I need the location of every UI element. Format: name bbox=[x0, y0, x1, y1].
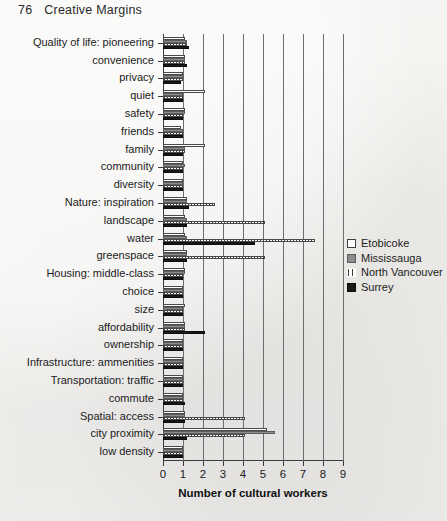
category-label: safety bbox=[125, 108, 154, 119]
x-axis-tick bbox=[203, 461, 204, 466]
bar-group bbox=[163, 443, 343, 461]
category-axis-labels: Quality of life: pioneeringconveniencepr… bbox=[0, 34, 160, 461]
x-axis-tick bbox=[163, 461, 164, 466]
x-tick-label: 4 bbox=[240, 468, 246, 480]
bar-group bbox=[163, 248, 343, 266]
bar-group bbox=[163, 194, 343, 212]
x-axis-ticks bbox=[163, 461, 343, 462]
bar-surrey bbox=[163, 384, 183, 387]
legend-label: Etobicoke bbox=[361, 238, 409, 250]
bar-surrey bbox=[163, 224, 187, 227]
category-label: city proximity bbox=[90, 428, 154, 439]
bar-surrey bbox=[163, 153, 183, 156]
category-label: commute bbox=[109, 393, 154, 404]
bar-group bbox=[163, 390, 343, 408]
category-label: size bbox=[134, 304, 154, 315]
category-label: landscape bbox=[104, 215, 154, 226]
bar-group bbox=[163, 70, 343, 88]
x-axis-tick bbox=[223, 461, 224, 466]
bar-group bbox=[163, 425, 343, 443]
bar-surrey bbox=[163, 277, 183, 280]
bar-surrey bbox=[163, 170, 183, 173]
category-label: greenspace bbox=[97, 250, 155, 261]
category-label: quiet bbox=[130, 90, 154, 101]
category-label: privacy bbox=[119, 72, 154, 83]
x-axis-tick bbox=[183, 461, 184, 466]
bar-surrey bbox=[163, 242, 255, 245]
x-axis-tick bbox=[323, 461, 324, 466]
bar-surrey bbox=[163, 402, 185, 405]
bar-group bbox=[163, 34, 343, 52]
bar-surrey bbox=[163, 46, 189, 49]
x-tick-label: 2 bbox=[200, 468, 206, 480]
x-axis-tick bbox=[283, 461, 284, 466]
plot-area bbox=[163, 34, 343, 461]
bar-surrey bbox=[163, 366, 183, 369]
x-axis-tick bbox=[343, 461, 344, 466]
bar-group bbox=[163, 105, 343, 123]
bar-surrey bbox=[163, 135, 183, 138]
chart-legend: EtobicokeMississaugaNorth VancouverSurre… bbox=[347, 238, 443, 296]
x-tick-label: 9 bbox=[340, 468, 346, 480]
category-label: low density bbox=[100, 446, 154, 457]
bar-group bbox=[163, 52, 343, 70]
bar-group bbox=[163, 408, 343, 426]
bar-group bbox=[163, 87, 343, 105]
x-tick-label: 7 bbox=[300, 468, 306, 480]
category-label: affordability bbox=[98, 322, 154, 333]
bar-group bbox=[163, 159, 343, 177]
bar-group bbox=[163, 319, 343, 337]
legend-label: Surrey bbox=[361, 282, 393, 294]
legend-item-etobicoke: Etobicoke bbox=[347, 238, 443, 250]
x-axis-title: Number of cultural workers bbox=[163, 487, 343, 499]
x-tick-label: 3 bbox=[220, 468, 226, 480]
legend-label: Mississauga bbox=[361, 253, 422, 265]
bar-surrey bbox=[163, 420, 185, 423]
x-tick-label: 0 bbox=[160, 468, 166, 480]
x-axis-tick bbox=[243, 461, 244, 466]
x-tick-label: 8 bbox=[320, 468, 326, 480]
category-label: friends bbox=[121, 126, 154, 137]
bar-group bbox=[163, 265, 343, 283]
bar-group bbox=[163, 372, 343, 390]
bar-chart-figure: Quality of life: pioneeringconveniencepr… bbox=[0, 0, 447, 521]
bar-group bbox=[163, 283, 343, 301]
legend-item-surrey: Surrey bbox=[347, 282, 443, 294]
category-label: Spatial: access bbox=[80, 411, 154, 422]
category-label: family bbox=[125, 144, 154, 155]
bar-group bbox=[163, 301, 343, 319]
bar-surrey bbox=[163, 437, 187, 440]
bar-surrey bbox=[163, 188, 183, 191]
category-label: Quality of life: pioneering bbox=[33, 37, 154, 48]
bar-surrey bbox=[163, 81, 181, 84]
category-label: ownership bbox=[104, 339, 154, 350]
legend-label: North Vancouver bbox=[361, 267, 443, 279]
x-tick-label: 1 bbox=[180, 468, 186, 480]
bar-surrey bbox=[163, 64, 187, 67]
bar-group bbox=[163, 176, 343, 194]
legend-swatch-icon bbox=[347, 283, 356, 292]
category-label: Nature: inspiration bbox=[65, 197, 154, 208]
bar-group bbox=[163, 336, 343, 354]
bar-surrey bbox=[163, 259, 187, 262]
bar-surrey bbox=[163, 206, 189, 209]
x-axis-tick bbox=[303, 461, 304, 466]
bar-group bbox=[163, 230, 343, 248]
category-label: Transportation: traffic bbox=[51, 375, 154, 386]
bar-surrey bbox=[163, 348, 183, 351]
bar-surrey bbox=[163, 99, 183, 102]
x-axis-tick-labels: 0123456789 bbox=[163, 468, 343, 482]
bar-surrey bbox=[163, 117, 183, 120]
gridline-9 bbox=[343, 34, 344, 461]
bar-group bbox=[163, 212, 343, 230]
bar-surrey bbox=[163, 455, 183, 458]
legend-item-northvan: North Vancouver bbox=[347, 267, 443, 279]
bar-group bbox=[163, 354, 343, 372]
bar-surrey bbox=[163, 313, 183, 316]
x-tick-label: 5 bbox=[260, 468, 266, 480]
bar-surrey bbox=[163, 295, 183, 298]
category-label: choice bbox=[122, 286, 154, 297]
category-label: convenience bbox=[92, 55, 154, 66]
bar-group bbox=[163, 123, 343, 141]
bar-surrey bbox=[163, 331, 205, 334]
